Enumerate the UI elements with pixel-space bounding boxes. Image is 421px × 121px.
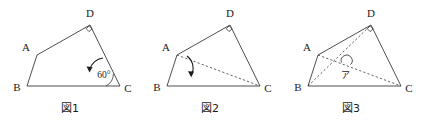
diagonal-ac [177, 55, 260, 86]
intersection-angle-label: ア [341, 70, 350, 80]
rotation-arrow-head [188, 71, 194, 77]
figure-3-caption: 図3 [281, 99, 421, 115]
rotation-arrow-curve [187, 56, 193, 74]
vertex-label-c: C [124, 82, 131, 94]
vertex-label-a: A [303, 41, 311, 53]
figure-panel-1: A B C D 60° 図1 [0, 0, 140, 121]
angle-label-60: 60° [97, 70, 111, 80]
vertex-label-c: C [264, 82, 271, 94]
vertex-label-c: C [405, 82, 412, 94]
figure-1-caption: 図1 [0, 99, 140, 115]
vertex-label-b: B [153, 81, 160, 93]
figure-2-drawing: A B C D [140, 0, 280, 100]
vertex-label-b: B [13, 81, 20, 93]
angle-arc-intersection [341, 55, 352, 64]
figure-3-drawing: A B C D ア [281, 0, 421, 100]
vertex-label-d: D [367, 7, 375, 19]
vertex-label-a: A [22, 41, 30, 53]
vertex-label-d: D [226, 7, 234, 19]
figure-1-drawing: A B C D 60° [0, 0, 140, 100]
diagonal-ac [318, 55, 401, 86]
vertex-label-a: A [162, 41, 170, 53]
vertex-label-b: B [294, 81, 301, 93]
figure-panel-3: A B C D ア 図3 [281, 0, 421, 121]
rotation-arrow-head [87, 67, 93, 73]
figure-2-caption: 図2 [140, 99, 280, 115]
quadrilateral-abcd [308, 25, 401, 86]
quadrilateral-abcd [167, 25, 260, 86]
geometry-figure-sheet: A B C D 60° 図1 A B C D 図2 [0, 0, 421, 121]
vertex-label-d: D [86, 7, 94, 19]
figure-panel-2: A B C D 図2 [140, 0, 280, 121]
